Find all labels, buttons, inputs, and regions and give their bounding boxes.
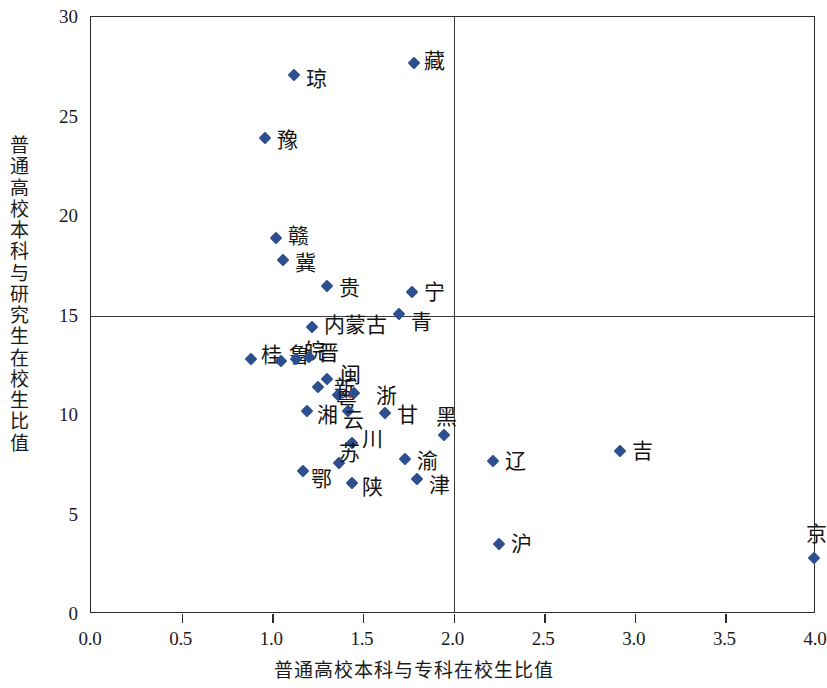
- y-axis-tick-label: 15: [38, 305, 78, 324]
- data-point: [320, 279, 333, 292]
- data-point-label: 甘: [397, 405, 418, 426]
- x-axis-tick-label: 2.5: [532, 629, 555, 648]
- x-axis-tick: [725, 614, 726, 623]
- scatter-chart-figure: 普通高校本科与研究生在校生比值 藏琼豫赣冀贵宁青内蒙古桂鲁皖晋闽新粤浙湘云甘黑川…: [0, 0, 827, 688]
- data-point-label: 黑: [436, 406, 457, 427]
- data-point-label: 京: [806, 524, 827, 545]
- y-axis-tick-label: 0: [38, 604, 78, 623]
- x-axis-tick: [182, 614, 183, 623]
- data-point-label: 川: [362, 428, 383, 449]
- y-axis-tick-label: 30: [38, 7, 78, 26]
- x-axis-tick-label: 0.5: [169, 629, 192, 648]
- data-point: [492, 538, 505, 551]
- y-axis-tick-label: 25: [38, 106, 78, 125]
- x-axis-tick-label: 1.5: [350, 629, 373, 648]
- data-point: [244, 353, 257, 366]
- y-axis-tick-label: 20: [38, 206, 78, 225]
- x-axis-tick: [544, 614, 545, 623]
- y-axis-tick-label: 5: [38, 504, 78, 523]
- data-point: [487, 454, 500, 467]
- data-point-label: 晋: [318, 343, 339, 364]
- data-point-label: 沪: [511, 534, 532, 555]
- x-axis-tick-label: 0.0: [79, 629, 102, 648]
- data-point: [438, 429, 451, 442]
- data-point-label: 鄂: [311, 468, 332, 489]
- data-point-label: 藏: [424, 50, 445, 71]
- data-point-label: 青: [411, 311, 432, 332]
- x-axis-title: 普通高校本科与专科在校生比值: [0, 655, 827, 682]
- y-axis-title: 普通高校本科与研究生在校生比值: [4, 135, 34, 454]
- x-axis-tick-label: 3.5: [713, 629, 736, 648]
- plot-area: 藏琼豫赣冀贵宁青内蒙古桂鲁皖晋闽新粤浙湘云甘黑川苏鄂陕渝津辽吉沪京: [90, 16, 815, 613]
- data-point: [393, 307, 406, 320]
- data-point: [411, 472, 424, 485]
- data-point-label: 冀: [295, 252, 316, 273]
- data-point-label: 津: [429, 474, 450, 495]
- data-point: [808, 552, 821, 565]
- y-axis-tick-label: 10: [38, 405, 78, 424]
- x-axis-tick-label: 1.0: [260, 629, 283, 648]
- x-axis-tick-label: 2.0: [441, 629, 464, 648]
- data-point-label: 苏: [339, 442, 360, 463]
- data-point: [288, 68, 301, 81]
- x-axis-tick: [272, 614, 273, 623]
- data-point: [306, 321, 319, 334]
- data-point: [398, 452, 411, 465]
- data-point: [346, 476, 359, 489]
- data-point-label: 辽: [505, 450, 526, 471]
- data-point-label: 宁: [424, 281, 445, 302]
- reference-line-horizontal: [91, 316, 814, 317]
- data-point: [378, 407, 391, 420]
- data-point-label: 内蒙古: [324, 315, 387, 336]
- data-point-label: 陕: [362, 476, 383, 497]
- data-point-label: 渝: [417, 450, 438, 471]
- data-point-label: 吉: [632, 440, 653, 461]
- data-point-label: 琼: [306, 68, 327, 89]
- x-axis-tick: [635, 614, 636, 623]
- data-point: [300, 405, 313, 418]
- data-point-label: 豫: [277, 130, 298, 151]
- data-point: [405, 285, 418, 298]
- data-point: [297, 464, 310, 477]
- data-point: [407, 56, 420, 69]
- data-point: [614, 444, 627, 457]
- data-point: [311, 381, 324, 394]
- data-point: [320, 373, 333, 386]
- data-point-label: 湘: [317, 405, 338, 426]
- data-point: [270, 232, 283, 245]
- reference-line-vertical: [454, 17, 455, 612]
- data-point: [277, 253, 290, 266]
- data-point-label: 浙: [376, 386, 397, 407]
- data-point: [259, 132, 272, 145]
- x-axis-tick-label: 3.0: [622, 629, 645, 648]
- data-point-label: 贵: [339, 277, 360, 298]
- x-axis-tick-label: 4.0: [804, 629, 827, 648]
- x-axis-tick: [454, 614, 455, 623]
- data-point-label: 赣: [288, 225, 309, 246]
- x-axis-tick: [363, 614, 364, 623]
